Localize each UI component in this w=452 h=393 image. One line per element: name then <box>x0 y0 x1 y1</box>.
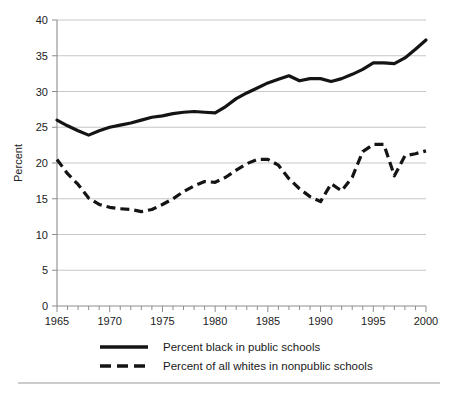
x-tick-label: 1975 <box>150 315 174 327</box>
y-tick-label: 0 <box>42 300 48 312</box>
y-tick-label: 35 <box>36 50 48 62</box>
chart-figure: 40 35 30 25 20 15 10 5 0 Percent 1965 19… <box>0 0 452 393</box>
x-tick-label: 1990 <box>308 315 332 327</box>
chart-background <box>0 0 452 393</box>
y-tick-label: 40 <box>36 14 48 26</box>
y-tick-label: 20 <box>36 157 48 169</box>
legend-label-0: Percent black in public schools <box>163 341 320 353</box>
y-tick-label: 15 <box>36 193 48 205</box>
x-tick-label: 1980 <box>203 315 227 327</box>
y-tick-label: 10 <box>36 229 48 241</box>
x-tick-label: 1985 <box>256 315 280 327</box>
x-tick-label: 1995 <box>361 315 385 327</box>
line-chart: 40 35 30 25 20 15 10 5 0 Percent 1965 19… <box>0 0 452 393</box>
x-tick-label: 1970 <box>97 315 121 327</box>
y-tick-label: 5 <box>42 264 48 276</box>
x-tick-label: 2000 <box>414 315 438 327</box>
legend-label-1: Percent of all whites in nonpublic schoo… <box>163 360 373 372</box>
y-tick-label: 30 <box>36 86 48 98</box>
y-axis-title: Percent <box>12 144 24 182</box>
x-tick-label: 1965 <box>45 315 69 327</box>
y-tick-label: 25 <box>36 121 48 133</box>
